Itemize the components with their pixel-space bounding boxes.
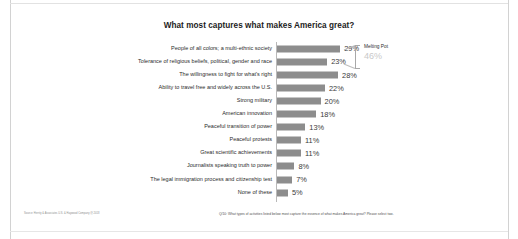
page-border-top <box>10 3 508 4</box>
bar-category-label: Peaceful protests <box>230 137 273 143</box>
bar-row: Peaceful transition of power13% <box>0 121 518 134</box>
bar <box>277 58 327 65</box>
chart-title: What most captures what makes America gr… <box>0 21 518 30</box>
bar-row: American innovation18% <box>0 108 518 121</box>
bar-and-value: 18% <box>277 111 335 118</box>
bar-value-label: 13% <box>309 123 324 130</box>
bar-and-value: 8% <box>277 163 309 170</box>
bar-category-label: People of all colors; a multi-ethnic soc… <box>171 46 272 52</box>
bar-category-label: Ability to travel free and widely across… <box>159 85 272 91</box>
bar-category-label: American innovation <box>222 111 272 117</box>
bar-category-label: Tolerance of religious beliefs, politica… <box>138 59 272 65</box>
bar-category-label: The willingness to fight for what's righ… <box>179 72 272 78</box>
bar-and-value: 28% <box>277 71 357 78</box>
bar-and-value: 11% <box>277 137 319 144</box>
bar-and-value: 7% <box>277 176 307 183</box>
bar-value-label: 7% <box>296 176 307 183</box>
bar <box>277 124 305 131</box>
bar-category-label: Peaceful transition of power <box>204 124 272 130</box>
melting-pot-annotation: Melting Pot 46% <box>355 44 475 78</box>
bar-and-value: 20% <box>277 97 339 104</box>
bar-row: Peaceful protests11% <box>0 134 518 147</box>
bar-value-label: 11% <box>305 150 319 157</box>
bar <box>277 84 325 91</box>
bar-category-label: None of these <box>238 190 272 196</box>
bar <box>277 137 301 144</box>
bar-row: Great scientific achievements11% <box>0 147 518 160</box>
footer-question-text: Q/10: What types of activities listed be… <box>219 212 394 216</box>
footer-source-text: Source: Herrity & Associates U.S. & Hayw… <box>24 212 99 215</box>
bar <box>277 45 340 52</box>
bar <box>277 176 292 183</box>
bar-category-label: Great scientific achievements <box>200 151 272 157</box>
bar <box>277 111 316 118</box>
bar-value-label: 20% <box>325 97 340 104</box>
bar-value-label: 11% <box>305 137 319 144</box>
annotation-label: Melting Pot <box>364 44 388 49</box>
bar-category-label: The legal immigration process and citize… <box>150 177 272 183</box>
bar-row: Journalists speaking truth to power8% <box>0 160 518 173</box>
bar <box>277 163 294 170</box>
bar-value-label: 5% <box>292 189 303 196</box>
bar-and-value: 5% <box>277 189 303 196</box>
bar-and-value: 22% <box>277 84 344 91</box>
bar-value-label: 8% <box>298 163 309 170</box>
bar-value-label: 22% <box>329 84 344 91</box>
bar-row: Strong military20% <box>0 94 518 107</box>
page-border-bottom <box>10 231 508 232</box>
bar-and-value: 13% <box>277 124 324 131</box>
bar-row: The legal immigration process and citize… <box>0 173 518 186</box>
bar <box>277 150 301 157</box>
bar <box>277 189 288 196</box>
bar <box>277 97 321 104</box>
bar-and-value: 23% <box>277 58 346 65</box>
annotation-value: 46% <box>364 51 382 61</box>
slide-canvas: What most captures what makes America gr… <box>0 0 518 239</box>
annotation-bracket-icon <box>355 45 360 69</box>
bar-row: Ability to travel free and widely across… <box>0 81 518 94</box>
bar-row: None of these5% <box>0 186 518 199</box>
bar-category-label: Journalists speaking truth to power <box>187 164 272 170</box>
bar-and-value: 11% <box>277 150 319 157</box>
bar-category-label: Strong military <box>237 98 272 104</box>
bar-value-label: 18% <box>320 110 335 117</box>
bar <box>277 71 338 78</box>
